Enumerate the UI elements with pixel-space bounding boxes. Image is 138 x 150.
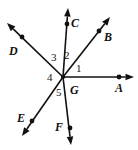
angle-label-1: 1 (76, 63, 82, 74)
ray-c-endpoint-dot (65, 22, 70, 27)
angle-diagram: G A B C D E F 1 2 3 4 5 (0, 0, 138, 150)
angle-label-2: 2 (64, 50, 70, 61)
point-label-b: B (104, 31, 112, 43)
ray-e-endpoint-dot (30, 119, 35, 124)
angle-label-5: 5 (56, 87, 62, 98)
ray-f-endpoint-dot (68, 126, 73, 131)
point-label-a: A (115, 82, 123, 94)
ray-f-arrowhead (67, 136, 74, 145)
ray-c-arrowhead (64, 8, 71, 17)
angle-label-3: 3 (51, 52, 57, 63)
point-label-e: E (17, 112, 25, 124)
ray-e-arrowhead (22, 127, 30, 136)
point-label-f: F (55, 121, 63, 133)
ray-b-endpoint-dot (97, 29, 102, 34)
ray-a-endpoint-dot (117, 75, 122, 80)
ray-d-endpoint-dot (20, 35, 25, 40)
point-label-c: C (71, 17, 79, 29)
ray-a-arrowhead (126, 74, 135, 81)
point-label-d: D (9, 45, 18, 57)
point-label-g: G (70, 84, 79, 96)
vertex-point-g-dot (61, 75, 65, 79)
ray-canvas (0, 0, 138, 150)
angle-label-4: 4 (47, 72, 53, 83)
